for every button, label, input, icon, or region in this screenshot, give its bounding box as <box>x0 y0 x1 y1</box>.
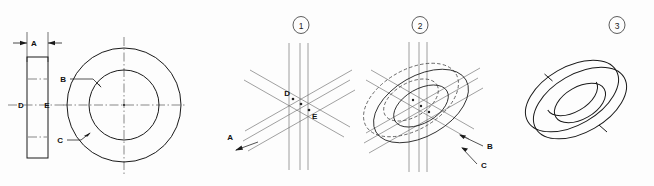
step-2-number: 2 <box>418 21 423 31</box>
step-1-center-front <box>292 98 295 101</box>
dimension-label-A: A <box>31 39 37 48</box>
leader-arrow-B <box>96 82 102 88</box>
step-2-label-B: B <box>487 142 493 151</box>
front-view-center-dot <box>123 104 125 106</box>
side-view-label-D: D <box>18 101 24 110</box>
step-2-arrow-B <box>459 135 466 140</box>
front-view-label-B: B <box>60 75 66 84</box>
step-2-number-badge: 2 <box>412 17 428 34</box>
iso-line-up-2 <box>243 80 350 141</box>
step-3-rear-outer-ellipse <box>513 45 630 146</box>
step-1-number-badge: 1 <box>293 17 309 34</box>
step-2-ellipses: 2 B <box>351 17 493 173</box>
step-1-arrow-A <box>235 146 243 151</box>
step-1-label-D: D <box>284 89 290 98</box>
side-view-label-E: E <box>44 101 50 110</box>
step-1-center-mid <box>300 103 303 106</box>
step-2-center-front <box>420 105 422 107</box>
step-3-tangent-edge-right <box>599 125 607 132</box>
technical-drawing-canvas: A D E B C 1 <box>0 0 654 186</box>
dimension-arrow-left <box>20 41 27 45</box>
front-view-label-C: C <box>57 136 63 145</box>
front-circle-view: B C <box>57 37 185 174</box>
drawing-sheet: A D E B C 1 <box>0 0 654 186</box>
step-3-front-outer-group <box>521 52 638 153</box>
step-1-center-rear <box>308 109 311 112</box>
step-2-center-rear <box>412 99 414 101</box>
step-2-rear-outer-group <box>351 48 471 152</box>
step-2-center-extra <box>428 111 430 113</box>
step-3-number: 3 <box>615 21 620 31</box>
step-1-label-A: A <box>227 133 233 142</box>
step-1-construction-grid: 1 D E A <box>227 17 355 171</box>
step-2-rear-outer-ellipse <box>351 48 471 152</box>
step-1-label-E: E <box>312 112 318 121</box>
step-1-number: 1 <box>299 21 304 31</box>
step-3-rear-outer-group <box>513 45 630 146</box>
leader-arrow-C <box>84 132 91 136</box>
step-2-iso-up-1 <box>366 68 480 133</box>
step-2-label-C: C <box>481 161 487 170</box>
iso-line-down-2 <box>244 80 344 137</box>
step-2-iso-up-3 <box>369 88 483 153</box>
dimension-arrow-right <box>48 41 55 45</box>
step-3-finished-ring: 3 <box>513 17 638 154</box>
step-3-number-badge: 3 <box>609 17 625 34</box>
step-3-front-outer-ellipse <box>521 52 638 153</box>
